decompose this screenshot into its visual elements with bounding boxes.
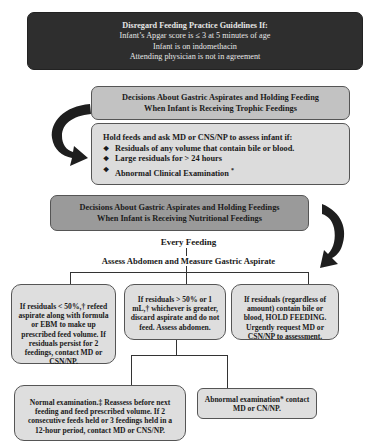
curved-arrow-icon bbox=[36, 100, 96, 172]
every-feeding-label: Every Feeding bbox=[0, 237, 377, 247]
outcome-abnormal-exam: Abnormal examination* contact MD or CN/N… bbox=[197, 388, 317, 419]
trophic-header-line1: Decisions About Gastric Aspirates and Ho… bbox=[92, 93, 349, 104]
disregard-guidelines-box: Disregard Feeding Practice Guidelines If… bbox=[27, 12, 363, 70]
hold-feeds-item: ❖ Large residuals for > 24 hours bbox=[103, 154, 349, 165]
diamond-bullet-icon: ❖ bbox=[103, 144, 109, 155]
connector-line bbox=[308, 272, 309, 284]
hold-feeds-item: ❖ Residuals of any volume that contain b… bbox=[103, 144, 349, 155]
diamond-bullet-icon: ❖ bbox=[103, 154, 109, 165]
hold-feeds-criteria-box: Hold feeds and ask MD or CNS/NP to asses… bbox=[91, 123, 350, 185]
trophic-feedings-header: Decisions About Gastric Aspirates and Ho… bbox=[91, 86, 350, 120]
disregard-condition-apgar: Infant’s Apgar score is ≤ 3 at 5 minutes… bbox=[28, 31, 362, 41]
branch-residuals-over-50: If residuals > 50% or 1 mL,† whichever i… bbox=[124, 284, 226, 340]
outcome-normal-exam: Normal examination.‡ Reassess before nex… bbox=[14, 385, 186, 441]
connector-line bbox=[70, 272, 308, 273]
hold-feeds-item: ❖ Abnormal Clinical Examination * bbox=[103, 165, 349, 179]
connector-line bbox=[70, 272, 71, 284]
disregard-title: Disregard Feeding Practice Guidelines If… bbox=[28, 21, 362, 31]
disregard-condition-physician: Attending physician is not in agreement bbox=[28, 52, 362, 62]
disregard-condition-indomethacin: Infant is on indomethacin bbox=[28, 42, 362, 52]
connector-line bbox=[131, 355, 132, 385]
connector-line bbox=[131, 355, 227, 356]
hold-feeds-list: ❖ Residuals of any volume that contain b… bbox=[103, 144, 349, 180]
diamond-bullet-icon: ❖ bbox=[103, 165, 109, 176]
trophic-header-line2: When Infant is Receiving Trophic Feeding… bbox=[92, 104, 349, 115]
connector-line bbox=[176, 340, 177, 355]
connector-line bbox=[227, 355, 228, 388]
nutritional-header-line1: Decisions About Gastric Aspirates and Ho… bbox=[51, 203, 308, 214]
branch-residuals-under-50: If residuals < 50%,† refeed aspirate alo… bbox=[11, 284, 116, 364]
hold-feeds-intro: Hold feeds and ask MD or CNS/NP to asses… bbox=[103, 133, 349, 144]
assess-abdomen-label: Assess Abdomen and Measure Gastric Aspir… bbox=[0, 256, 377, 266]
nutritional-feedings-header: Decisions About Gastric Aspirates and Ho… bbox=[50, 195, 309, 231]
branch-bile-or-blood: If residuals (regardless of amount) cont… bbox=[231, 284, 339, 340]
nutritional-header-line2: When Infant is Receiving Nutritional Fee… bbox=[51, 214, 308, 225]
connector-line bbox=[186, 248, 187, 256]
footnote-mark: * bbox=[231, 167, 234, 173]
connector-line bbox=[186, 266, 187, 284]
